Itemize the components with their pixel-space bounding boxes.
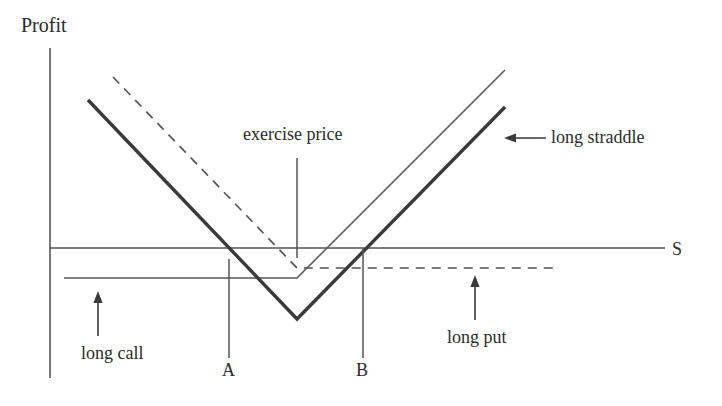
- point-b-label: B: [356, 361, 368, 379]
- long-put-label: long put: [447, 328, 507, 346]
- long-call-label: long call: [81, 344, 143, 362]
- profit-payoff-diagram: Profit S exercise price long straddle lo…: [0, 0, 722, 406]
- point-a-label: A: [222, 361, 235, 379]
- long-call-arrow-icon: [93, 291, 102, 336]
- y-axis-label: Profit: [21, 15, 67, 35]
- long-put-curve: [113, 77, 553, 268]
- long-put-arrow-icon: [470, 275, 479, 320]
- exercise-price-label: exercise price: [243, 125, 342, 143]
- x-axis-label: S: [672, 240, 682, 258]
- long-straddle-label: long straddle: [551, 128, 644, 146]
- long-straddle-arrow-icon: [504, 133, 546, 142]
- axes-group: [50, 48, 665, 378]
- annotation-arrows-group: [93, 133, 546, 336]
- leader-lines-group: [229, 158, 363, 358]
